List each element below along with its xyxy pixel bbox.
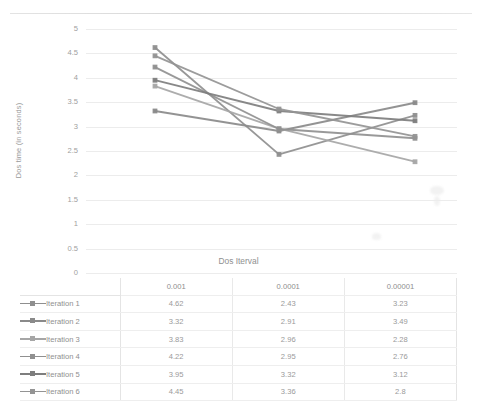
table-header-cell: 0.001: [120, 278, 232, 295]
series-marker: [277, 152, 282, 157]
series-marker: [153, 109, 158, 114]
series-marker: [153, 78, 158, 83]
table-cell: 3.12: [344, 365, 456, 383]
table-row: Iteration 14.622.433.23: [20, 295, 457, 313]
table-cell: 2.28: [344, 330, 456, 348]
table-cell: 2.95: [232, 348, 344, 366]
table-cell: 2.8: [344, 383, 456, 401]
legend-entry[interactable]: Iteration 4: [20, 348, 120, 366]
legend-swatch-icon: [20, 370, 46, 378]
plot-area: [86, 18, 457, 262]
table-header-cell: [20, 278, 120, 295]
legend-swatch-icon: [20, 353, 46, 361]
y-axis-tick-label: 2: [52, 170, 78, 179]
legend-label: Iteration 4: [46, 352, 80, 361]
y-axis-tick-label: 1: [52, 219, 78, 228]
y-axis-tick-label: 4.5: [52, 48, 78, 57]
y-axis-tick-label: 2.5: [52, 146, 78, 155]
table-cell: 3.23: [344, 295, 456, 313]
table-header-cell: 0.00001: [344, 278, 456, 295]
x-axis-title: Dos Iterval: [0, 256, 477, 266]
legend-swatch-icon: [20, 335, 46, 343]
table-cell: 3.49: [344, 313, 456, 331]
legend-entry[interactable]: Iteration 5: [20, 365, 120, 383]
series-marker: [413, 113, 418, 118]
table-header-row: 0.0010.00010.00001: [20, 278, 457, 295]
page-top-rule: [10, 13, 472, 14]
table-cell: 3.36: [232, 383, 344, 401]
y-axis-tick-label: 1.5: [52, 195, 78, 204]
table-cell: 3.32: [120, 313, 232, 331]
legend-entry[interactable]: Iteration 1: [20, 295, 120, 313]
legend-label: Iteration 3: [46, 335, 80, 344]
line-chart: Dos time (in seconds) 54.543.532.521.510…: [0, 18, 477, 280]
series-marker: [153, 53, 158, 58]
legend-label: Iteration 1: [46, 299, 80, 308]
table-cell: 2.91: [232, 313, 344, 331]
gridline: [86, 273, 457, 274]
series-line: [155, 48, 415, 155]
data-table: 0.0010.00010.00001Iteration 14.622.433.2…: [20, 278, 457, 401]
y-axis-tick-label: 3: [52, 122, 78, 131]
series-marker: [413, 100, 418, 105]
series-marker: [413, 134, 418, 139]
legend-label: Iteration 6: [46, 387, 80, 396]
series-line: [155, 86, 415, 162]
table-cell: 2.43: [232, 295, 344, 313]
y-axis-tick-label: 4: [52, 73, 78, 82]
y-axis-tick-label: 5: [52, 24, 78, 33]
series-marker: [153, 65, 158, 70]
table-row: Iteration 23.322.913.49: [20, 313, 457, 331]
y-axis-title: Dos time (in seconds): [14, 86, 23, 196]
table-row: Iteration 64.453.362.8: [20, 383, 457, 401]
legend-label: Iteration 2: [46, 317, 80, 326]
series-marker: [153, 45, 158, 50]
legend-label: Iteration 5: [46, 370, 80, 379]
legend-entry[interactable]: Iteration 3: [20, 330, 120, 348]
legend-entry[interactable]: Iteration 6: [20, 383, 120, 401]
table-cell: 4.22: [120, 348, 232, 366]
legend-swatch-icon: [20, 300, 46, 308]
table-cell: 3.95: [120, 365, 232, 383]
table-cell: 3.83: [120, 330, 232, 348]
table-row: Iteration 53.953.323.12: [20, 365, 457, 383]
series-marker: [413, 159, 418, 164]
table-row: Iteration 44.222.952.76: [20, 348, 457, 366]
series-marker: [413, 118, 418, 123]
y-axis-tick-label: 0: [52, 268, 78, 277]
table-cell: 4.45: [120, 383, 232, 401]
legend-swatch-icon: [20, 317, 46, 325]
table-header-cell: 0.0001: [232, 278, 344, 295]
table-row: Iteration 33.832.962.28: [20, 330, 457, 348]
y-axis-tick-label: 0.5: [52, 244, 78, 253]
table-cell: 2.96: [232, 330, 344, 348]
table-cell: 2.76: [344, 348, 456, 366]
legend-entry[interactable]: Iteration 2: [20, 313, 120, 331]
series-marker: [153, 84, 158, 89]
table-cell: 3.32: [232, 365, 344, 383]
y-axis-tick-label: 3.5: [52, 97, 78, 106]
series-marker: [277, 127, 282, 132]
legend-swatch-icon: [20, 388, 46, 396]
series-layer: [86, 18, 457, 262]
table-cell: 4.62: [120, 295, 232, 313]
series-marker: [277, 107, 282, 112]
series-line: [155, 56, 415, 137]
